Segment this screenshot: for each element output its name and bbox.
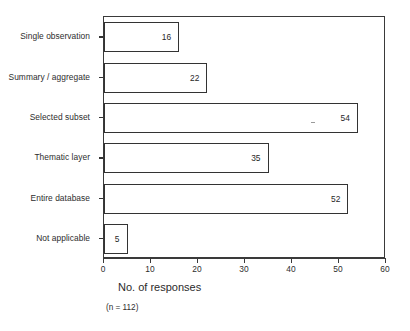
plot-area: 16225435525 (103, 16, 385, 258)
category-label: Selected subset (0, 112, 90, 122)
bar: 54 (104, 103, 358, 133)
x-axis-tick (338, 258, 339, 263)
x-axis-tick-label: 10 (145, 264, 154, 274)
bar: 22 (104, 63, 207, 93)
x-axis-tick-label: 50 (333, 264, 342, 274)
x-axis-tick (103, 258, 104, 263)
scan-artifact (311, 122, 315, 123)
bar: 16 (104, 22, 179, 52)
horizontal-bar-chart: Single observationSummary / aggregateSel… (0, 0, 410, 331)
x-axis-tick-label: 0 (101, 264, 106, 274)
x-axis-tick-label: 60 (380, 264, 389, 274)
x-axis-tick (150, 258, 151, 263)
sample-size-footnote: (n = 112) (106, 303, 138, 312)
category-label: Not applicable (0, 233, 90, 243)
category-label: Single observation (0, 31, 90, 41)
x-axis-tick (291, 258, 292, 263)
category-label: Thematic layer (0, 152, 90, 162)
x-axis-tick-label: 20 (192, 264, 201, 274)
x-axis-tick-label: 30 (239, 264, 248, 274)
category-label: Summary / aggregate (0, 72, 90, 82)
bar: 52 (104, 184, 348, 214)
bar-value-label: 35 (251, 153, 260, 163)
bar: 35 (104, 143, 269, 173)
bar-value-label: 54 (340, 113, 349, 123)
category-label: Entire database (0, 193, 90, 203)
x-axis-title: No. of responses (118, 281, 201, 293)
bar-value-label: 22 (190, 73, 199, 83)
bar: 5 (104, 224, 128, 254)
bar-value-label: 52 (331, 194, 340, 204)
x-axis-tick (385, 258, 386, 263)
x-axis-tick (244, 258, 245, 263)
x-axis-tick (197, 258, 198, 263)
x-axis-tick-label: 40 (286, 264, 295, 274)
category-axis-labels: Single observationSummary / aggregateSel… (0, 16, 96, 258)
bar-value-label: 16 (162, 32, 171, 42)
bar-value-label: 5 (115, 234, 120, 244)
